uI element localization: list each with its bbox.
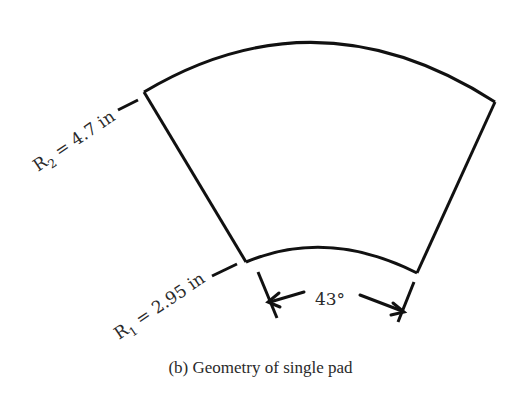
svg-text:R1 = 2.95 in: R1 = 2.95 in	[110, 268, 211, 347]
angle-extension-right	[398, 282, 414, 322]
right-edge	[417, 102, 495, 273]
svg-text:R2 = 4.7 in: R2 = 4.7 in	[29, 106, 121, 179]
angle-extension-left	[258, 272, 277, 318]
angle-label: 43°	[315, 289, 345, 309]
inner-radius-leader	[212, 264, 237, 276]
figure-caption: (b) Geometry of single pad	[0, 358, 521, 378]
left-edge	[144, 92, 246, 262]
outer-radius-leader	[118, 100, 138, 110]
inner-radius-label: R1 = 2.95 in	[110, 268, 211, 347]
pad-geometry-diagram: 43° R2 = 4.7 in R1 = 2.95 in	[0, 0, 521, 393]
outer-arc	[144, 42, 495, 102]
arrow-right-shaft	[360, 295, 402, 311]
outer-radius-label: R2 = 4.7 in	[29, 106, 121, 179]
inner-arc	[246, 247, 417, 273]
pad-outline	[144, 42, 495, 273]
